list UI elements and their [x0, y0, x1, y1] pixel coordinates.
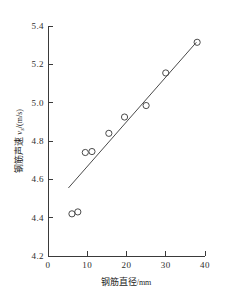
- y-axis-title-unit: /(m/s): [15, 109, 24, 128]
- x-tick-label: 20: [122, 260, 132, 270]
- y-tick-label: 5.4: [32, 21, 45, 31]
- y-tick-label: 5.0: [32, 98, 45, 108]
- x-tick-label: 40: [200, 260, 210, 270]
- data-point: [163, 70, 169, 76]
- x-tick-label: 10: [82, 260, 92, 270]
- data-point: [106, 130, 112, 136]
- y-tick-label: 4.4: [32, 213, 45, 223]
- data-point: [69, 211, 75, 217]
- data-point: [143, 102, 149, 108]
- x-axis-title: 钢筋直径/mm: [101, 276, 152, 287]
- y-tick-label: 4.8: [32, 136, 45, 146]
- y-axis-ticks: [48, 26, 53, 256]
- y-tick-label: 4.6: [32, 174, 45, 184]
- scatter-plot: 4.2 4.4 4.6 4.8 5.0 5.2 5.4 0 10 20 30 4…: [0, 0, 231, 303]
- data-point-group: [69, 39, 200, 217]
- x-axis-title-name: 钢筋直径: [101, 276, 137, 287]
- x-axis-ticks: [48, 251, 205, 256]
- trend-line: [68, 42, 196, 188]
- y-axis-tick-labels: 4.2 4.4 4.6 4.8 5.0 5.2 5.4: [32, 21, 45, 261]
- data-point: [121, 114, 127, 120]
- x-axis-tick-labels: 0 10 20 30 40: [46, 260, 210, 270]
- y-axis-title-name: 钢筋声速: [13, 137, 24, 173]
- data-point: [89, 148, 95, 154]
- x-axis-title-unit: /mm: [137, 278, 152, 287]
- y-axis-title: 钢筋声速 vs/(m/s): [13, 109, 25, 173]
- y-tick-label: 5.2: [32, 59, 44, 69]
- chart-figure: 4.2 4.4 4.6 4.8 5.0 5.2 5.4 0 10 20 30 4…: [0, 0, 231, 303]
- data-point: [194, 39, 200, 45]
- data-point: [75, 209, 81, 215]
- y-tick-label: 4.2: [32, 251, 44, 261]
- x-tick-label: 0: [46, 260, 51, 270]
- data-point: [82, 149, 88, 155]
- x-tick-label: 30: [161, 260, 171, 270]
